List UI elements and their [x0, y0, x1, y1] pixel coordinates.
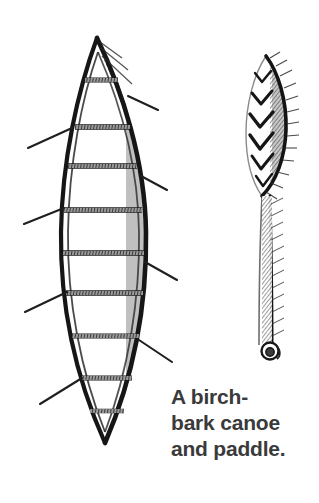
caption-line-3: and paddle.	[171, 436, 319, 462]
illustration-page: A birch- bark canoe and paddle.	[0, 0, 319, 503]
caption: A birch- bark canoe and paddle.	[171, 384, 319, 462]
caption-line-2: bark canoe	[171, 410, 319, 436]
paddle-grip-knob-inner	[266, 348, 274, 356]
caption-line-1: A birch-	[171, 384, 319, 410]
